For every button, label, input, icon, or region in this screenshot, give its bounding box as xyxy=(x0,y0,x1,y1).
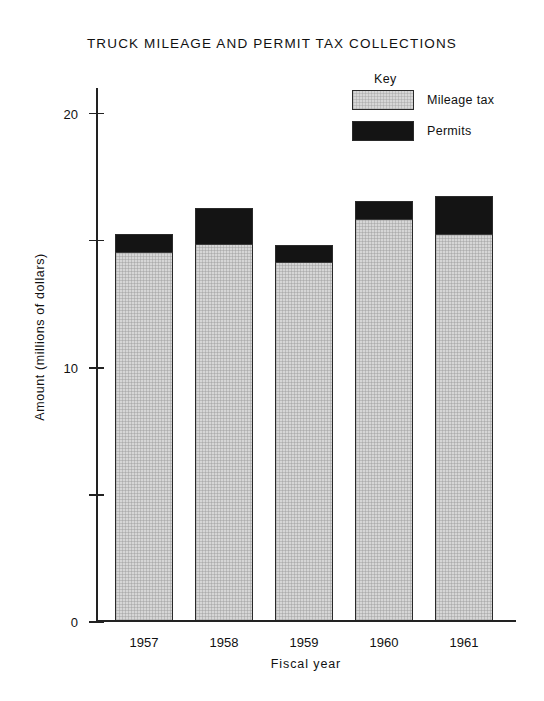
bar-segment-mileage-tax xyxy=(435,234,493,621)
bar-segment-permits xyxy=(195,208,253,244)
x-axis-tick-label: 1957 xyxy=(115,622,173,650)
x-axis-tick-label: 1961 xyxy=(435,622,493,650)
bar-stack xyxy=(195,208,253,620)
y-tick-major: 10 xyxy=(89,367,104,369)
y-tick-minor xyxy=(89,240,104,242)
plot-area: 01020 19571958195919601961 xyxy=(96,88,516,622)
y-tick-major: 0 xyxy=(89,621,104,623)
bar-segment-permits xyxy=(435,196,493,234)
y-tick-label: 10 xyxy=(64,360,78,375)
bar-segment-mileage-tax xyxy=(195,244,253,620)
y-tick-label: 20 xyxy=(64,106,78,121)
chart-figure: TRUCK MILEAGE AND PERMIT TAX COLLECTIONS… xyxy=(0,0,544,701)
x-axis-title: Fiscal year xyxy=(96,657,516,671)
bar-segment-permits xyxy=(355,201,413,219)
bar-stack xyxy=(275,245,333,620)
legend-title: Key xyxy=(374,72,532,86)
bar-stack xyxy=(435,196,493,621)
bar-segment-mileage-tax xyxy=(355,219,413,621)
y-tick-minor xyxy=(89,494,104,496)
bar-segment-mileage-tax xyxy=(275,262,333,621)
bar-segment-mileage-tax xyxy=(115,252,173,621)
bar-segment-permits xyxy=(275,245,333,262)
y-tick-major: 20 xyxy=(89,113,104,115)
bar-stack xyxy=(115,234,173,621)
x-axis-tick-label: 1958 xyxy=(195,622,253,650)
y-tick-label: 0 xyxy=(71,615,78,630)
bar-segment-permits xyxy=(115,234,173,252)
chart-title: TRUCK MILEAGE AND PERMIT TAX COLLECTIONS xyxy=(0,36,544,51)
y-axis-line xyxy=(96,88,98,622)
y-axis-title: Amount (millions of dollars) xyxy=(33,137,47,537)
bar-stack xyxy=(355,201,413,621)
x-axis-tick-label: 1959 xyxy=(275,622,333,650)
x-axis-tick-label: 1960 xyxy=(355,622,413,650)
